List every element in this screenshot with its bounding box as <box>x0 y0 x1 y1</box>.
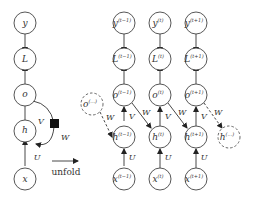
delay-square <box>50 119 59 128</box>
label-o: o <box>22 89 28 99</box>
svg-text:U: U <box>201 153 208 162</box>
label-x: x <box>22 174 27 184</box>
label-h: h <box>22 125 28 135</box>
edge-label-V: V <box>38 117 45 126</box>
edge-label-W-2: W <box>178 108 187 117</box>
svg-text:U: U <box>129 153 136 162</box>
folded-graph: y L o h x V W U <box>14 12 70 190</box>
edge-label-U: U <box>34 153 41 162</box>
svg-text:U: U <box>165 153 172 162</box>
edge-label-W-1: W <box>142 108 151 117</box>
column-t-plus-1: y(t+1) L(t+1) o(t+1) h(t+1) x(t+1) V U <box>183 12 208 190</box>
svg-text:V: V <box>129 112 136 121</box>
unfold-label: unfold <box>52 167 81 177</box>
edge-label-W: W <box>61 133 70 142</box>
rnn-unfold-diagram: y L o h x V W U unfold o(...) W y(t−1) <box>0 0 253 202</box>
edge-label-W-0: W <box>106 113 115 122</box>
column-t-minus-1: y(t−1) L(t−1) o(t−1) h(t−1) x(t−1) V U <box>111 12 136 190</box>
unfold-arrow: unfold <box>52 161 81 177</box>
svg-text:V: V <box>201 112 208 121</box>
label-L: L <box>21 54 28 64</box>
unfolded-graph: o(...) W y(t−1) L(t−1) o(t−1) h(t−1) x(t… <box>81 12 240 190</box>
svg-text:V: V <box>165 112 172 121</box>
edge-label-W-3: W <box>214 108 223 117</box>
column-t: y(t) L(t) o(t) h(t) x(t) V U <box>149 12 172 190</box>
label-y: y <box>21 18 28 28</box>
